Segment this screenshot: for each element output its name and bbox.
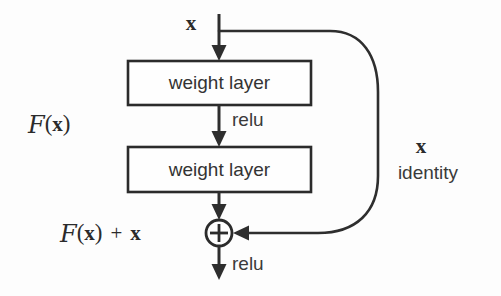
output-function-label: F(x)+x <box>59 220 141 248</box>
output-script-f-glyph: F <box>59 220 78 248</box>
output-addend-glyph: x <box>130 221 141 245</box>
relu-mid-flow-group: relu <box>212 105 264 147</box>
input-arrow-head <box>212 45 227 61</box>
input-flow-group <box>212 14 227 61</box>
shortcut-identity-label: identity <box>398 162 459 183</box>
relu-out-flow-group: relu <box>212 246 264 280</box>
output-close-paren-glyph: ) <box>95 220 103 245</box>
relu-out-arrow-head <box>212 264 227 280</box>
identity-arrow-head <box>233 226 249 241</box>
residual-block-figure: weight layer relu weight layer <box>0 0 501 296</box>
relu-mid-arrow-head <box>212 131 227 147</box>
relu-out-label: relu <box>232 253 264 274</box>
open-paren-glyph: ( <box>45 111 53 136</box>
presum-flow-group <box>212 192 227 220</box>
diagram-canvas: weight layer relu weight layer <box>0 0 501 296</box>
residual-function-label: F(x) <box>27 111 71 139</box>
output-plus-glyph: + <box>111 221 123 245</box>
input-variable-label: x <box>186 11 197 35</box>
weight-layer-1-group: weight layer <box>128 61 311 105</box>
relu-mid-label: relu <box>232 109 264 130</box>
weight-layer-1-label: weight layer <box>168 72 271 93</box>
close-paren-glyph: ) <box>63 111 71 136</box>
weight-layer-2-group: weight layer <box>128 147 311 192</box>
output-bold-x-glyph: x <box>84 221 95 245</box>
bold-x-glyph: x <box>52 112 63 136</box>
output-open-paren-glyph: ( <box>77 220 85 245</box>
weight-layer-2-label: weight layer <box>168 159 271 180</box>
shortcut-variable-label: x <box>416 134 427 158</box>
sum-node-group <box>206 220 232 246</box>
script-f-glyph: F <box>27 111 46 139</box>
presum-arrow-head <box>212 204 227 220</box>
